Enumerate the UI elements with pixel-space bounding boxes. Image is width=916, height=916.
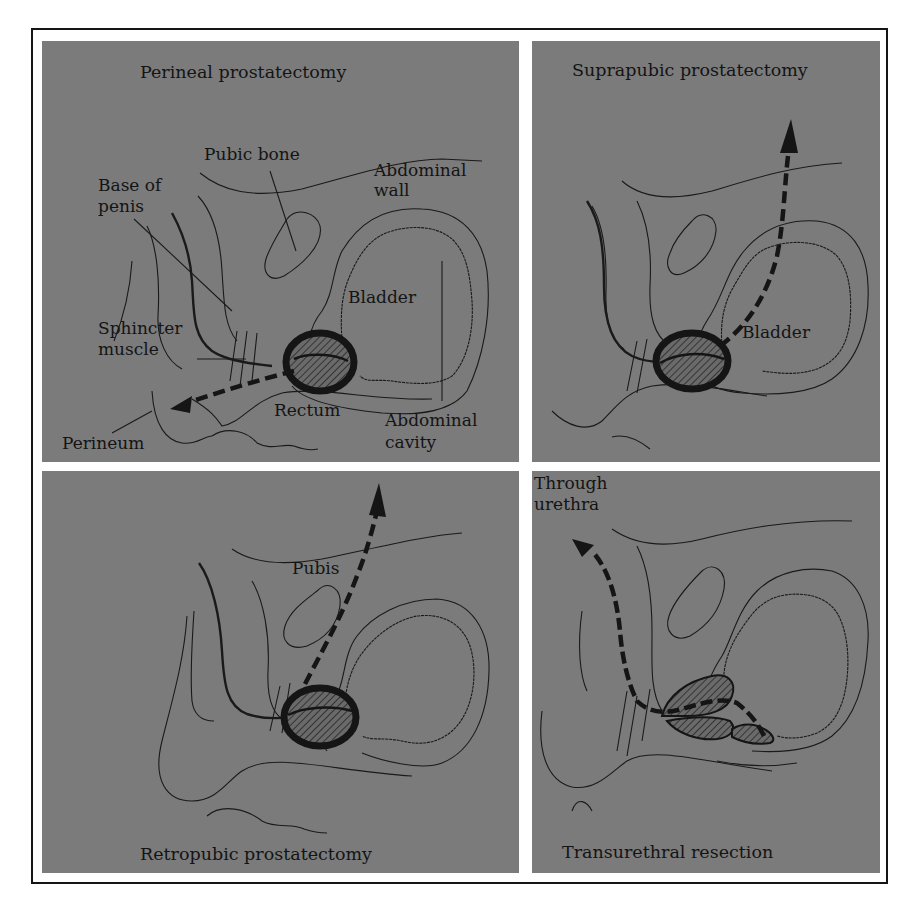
label-base-of-penis: penis — [98, 197, 144, 216]
label-through-urethra: urethra — [534, 495, 599, 514]
perineal-anatomy-drawing — [42, 41, 519, 462]
panel-suprapubic-prostatectomy: Suprapubic prostatectomy Bladder — [532, 41, 880, 462]
label-base-of-penis: Base of — [98, 176, 161, 195]
label-pubic-bone: Pubic bone — [204, 145, 300, 164]
label-abdominal-wall: wall — [374, 181, 410, 200]
label-pubis: Pubis — [292, 559, 339, 578]
panel-title: Suprapubic prostatectomy — [572, 61, 808, 80]
label-abdominal-wall: Abdominal — [374, 161, 466, 180]
panel-perineal-prostatectomy: Perineal prostatectomy Pubic bone Abdomi… — [42, 41, 519, 462]
panel-transurethral-resection: Through urethra Transurethral resection — [532, 471, 880, 873]
panel-title: Retropubic prostatectomy — [140, 845, 372, 864]
label-sphincter-muscle: muscle — [98, 340, 159, 359]
label-bladder: Bladder — [742, 323, 810, 342]
label-abdominal-cavity: Abdominal — [385, 411, 477, 430]
panel-retropubic-prostatectomy: Pubis Retropubic prostatectomy — [42, 471, 519, 873]
retropubic-anatomy-drawing — [42, 471, 519, 873]
label-bladder: Bladder — [348, 288, 416, 307]
label-sphincter-muscle: Sphincter — [98, 319, 182, 338]
label-abdominal-cavity: cavity — [385, 433, 436, 452]
panel-title: Transurethral resection — [562, 843, 773, 862]
label-through-urethra: Through — [534, 474, 607, 493]
label-perineum: Perineum — [62, 434, 144, 453]
transurethral-anatomy-drawing — [532, 471, 880, 873]
label-rectum: Rectum — [274, 401, 340, 420]
panel-title: Perineal prostatectomy — [140, 63, 346, 82]
suprapubic-anatomy-drawing — [532, 41, 880, 462]
